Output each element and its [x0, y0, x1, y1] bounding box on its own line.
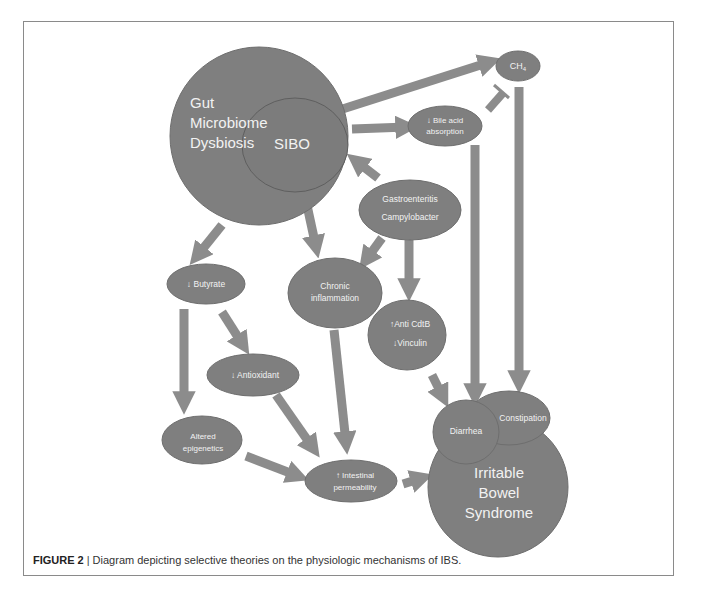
node-bile-acid — [408, 106, 482, 146]
node-anti-cdtb-vinculin — [368, 300, 446, 370]
gut-label-line3: Dysbiosis — [190, 134, 254, 151]
arrow-gastro-to-sibo — [356, 161, 378, 178]
epigenetics-label-line2: epigenetics — [183, 444, 223, 453]
node-gastroenteritis — [359, 180, 461, 240]
anticdtb-label-line1: ↑Anti CdtB — [390, 319, 430, 329]
epigenetics-label-line1: Altered — [190, 432, 215, 441]
permeability-label-line2: permeability — [333, 483, 376, 492]
bile-label-line2: absorption — [426, 127, 463, 136]
chronic-label-line1: Chronic — [320, 281, 350, 291]
arrow-butyrate-to-antioxidant — [222, 312, 243, 345]
arrow-sibo-to-ch4 — [330, 62, 490, 113]
chronic-label-line2: inflammation — [311, 293, 359, 303]
gut-label-line1: Gut — [190, 94, 215, 111]
constipation-label: Constipation — [499, 413, 547, 423]
ibs-label-line1: Irritable — [474, 464, 524, 481]
mechanism-diagram: Gut Microbiome Dysbiosis SIBO CH4 ↓ Bile… — [0, 0, 701, 616]
node-intestinal-permeability — [305, 460, 397, 502]
ibs-label-line3: Syndrome — [465, 504, 533, 521]
sibo-label: SIBO — [274, 135, 310, 152]
inhibit-ch4-to-bile — [488, 85, 509, 110]
arrow-gut-to-butyrate — [197, 225, 222, 256]
permeability-label-line1: ↑ Intestinal — [336, 471, 374, 480]
bile-label-line1: ↓ Bile acid — [427, 116, 463, 125]
arrow-epigenetics-to-permeability — [246, 456, 298, 476]
diarrhea-label: Diarrhea — [450, 426, 483, 436]
caption-label: FIGURE 2 — [33, 554, 84, 566]
arrow-chronic-to-permeability — [334, 330, 346, 443]
antioxidant-label: ↓ Antioxidant — [231, 370, 280, 380]
caption-separator: | — [87, 554, 90, 566]
gastro-label-line1: Gastroenteritis — [382, 194, 437, 204]
gastro-label-line2: Campylobacter — [381, 212, 438, 222]
arrow-gut-to-bile — [352, 127, 407, 129]
gut-label-line2: Microbiome — [190, 114, 268, 131]
arrow-gastro-to-chronic — [366, 238, 382, 260]
butyrate-label: ↓ Butyrate — [187, 279, 226, 289]
ibs-label-line2: Bowel — [479, 484, 520, 501]
arrow-antioxidant-to-permeability — [276, 395, 313, 448]
caption-text: Diagram depicting selective theories on … — [93, 554, 462, 566]
arrow-permeability-to-ibs — [403, 478, 422, 484]
anticdtb-label-line2: ↓Vinculin — [393, 338, 427, 348]
figure-caption: FIGURE 2|Diagram depicting selective the… — [33, 554, 461, 566]
arrow-anticdtb-to-diarrhea — [432, 375, 443, 397]
